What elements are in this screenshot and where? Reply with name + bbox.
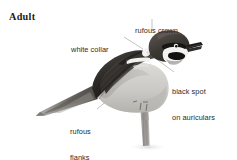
annotation-black-spot-line-2: on auriculars: [172, 114, 215, 123]
illustration-plate: Adult rufous crown white collar black sp…: [0, 0, 237, 160]
annotation-rufous-crown: rufous crown: [135, 10, 178, 53]
annotation-white-collar: white collar: [71, 29, 109, 72]
annotation-black-spot-line-1: black spot: [172, 88, 215, 97]
annotation-black-spot: black spot on auriculars: [172, 71, 215, 140]
annotation-rufous-crown-line-1: rufous crown: [135, 27, 178, 36]
annotation-rufous-flanks-line-1: rufous: [70, 128, 91, 137]
bill: [187, 42, 203, 52]
annotation-white-collar-line-1: white collar: [71, 46, 109, 55]
annotation-rufous-flanks: rufous flanks: [70, 111, 91, 160]
annotation-rufous-flanks-line-2: flanks: [70, 154, 91, 160]
age-label: Adult: [9, 11, 35, 22]
